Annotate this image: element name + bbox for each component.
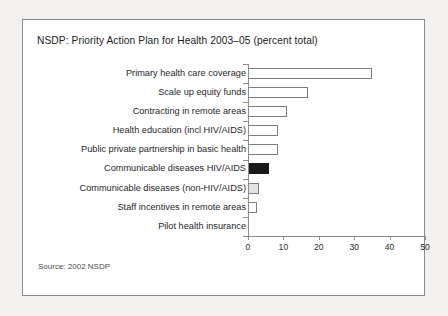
category-label: Communicable diseases HIV/AIDS — [104, 159, 246, 178]
plot-area: Primary health care coverage Scale up eq… — [37, 64, 412, 254]
bar-track — [248, 140, 412, 159]
figure-root: NSDP: Priority Action Plan for Health 20… — [0, 0, 448, 316]
bar-primary-health-care-coverage — [248, 68, 372, 79]
y-axis-tick — [243, 83, 248, 84]
category-label: Health education (incl HIV/AIDS) — [113, 121, 246, 140]
bar-row: Public private partnership in basic heal… — [37, 140, 412, 159]
page-title: NSDP: Priority Action Plan for Health 20… — [37, 35, 318, 46]
category-label: Public private partnership in basic heal… — [81, 140, 246, 159]
y-axis-tick — [243, 217, 248, 218]
x-axis-tick-label: 10 — [271, 242, 295, 252]
bar-row: Health education (incl HIV/AIDS) — [37, 121, 412, 140]
bar-row: Communicable diseases (non-HIV/AIDS) — [37, 179, 412, 198]
bar-staff-incentives-in-remote-areas — [248, 202, 257, 213]
category-label: Pilot health insurance — [158, 217, 246, 236]
bar-track — [248, 83, 412, 102]
x-axis-tick — [354, 236, 355, 240]
y-axis-tick — [243, 179, 248, 180]
bar-row: Contracting in remote areas — [37, 102, 412, 121]
category-label: Communicable diseases (non-HIV/AIDS) — [80, 179, 246, 198]
source-note: Source: 2002 NSDP — [38, 262, 110, 271]
category-label: Staff incentives in remote areas — [117, 198, 246, 217]
bar-track — [248, 217, 412, 236]
y-axis-tick — [243, 140, 248, 141]
bar-track — [248, 159, 412, 178]
bar-track — [248, 198, 412, 217]
bar-contracting-in-remote-areas — [248, 106, 287, 117]
category-label: Primary health care coverage — [126, 64, 246, 83]
x-axis-tick-label: 50 — [413, 242, 437, 252]
bar-track — [248, 102, 412, 121]
x-axis-tick-label: 40 — [378, 242, 402, 252]
bar-health-education — [248, 125, 278, 136]
bar-track — [248, 64, 412, 83]
y-axis-tick — [243, 121, 248, 122]
category-label: Scale up equity funds — [158, 83, 246, 102]
x-axis-tick-label: 30 — [342, 242, 366, 252]
bar-track — [248, 121, 412, 140]
bar-row: Staff incentives in remote areas — [37, 198, 412, 217]
y-axis-line — [248, 64, 249, 236]
x-axis-tick-label: 0 — [236, 242, 260, 252]
bar-communicable-diseases-hiv-aids — [248, 163, 269, 174]
x-axis-tick-label: 20 — [307, 242, 331, 252]
bar-row: Primary health care coverage — [37, 64, 412, 83]
x-axis-line — [248, 236, 426, 237]
bar-row: Scale up equity funds — [37, 83, 412, 102]
y-axis-tick — [243, 64, 248, 65]
x-axis-tick — [283, 236, 284, 240]
bar-communicable-diseases-non-hiv-aids — [248, 183, 259, 194]
bar-row: Pilot health insurance — [37, 217, 412, 236]
bar-scale-up-equity-funds — [248, 87, 308, 98]
bar-track — [248, 179, 412, 198]
bar-row: Communicable diseases HIV/AIDS — [37, 159, 412, 178]
x-axis-tick — [390, 236, 391, 240]
category-label: Contracting in remote areas — [133, 102, 246, 121]
chart-panel: NSDP: Priority Action Plan for Health 20… — [22, 19, 425, 296]
y-axis-tick — [243, 102, 248, 103]
x-axis-tick — [248, 236, 249, 240]
x-axis-tick — [425, 236, 426, 240]
x-axis-tick — [319, 236, 320, 240]
y-axis-tick — [243, 198, 248, 199]
y-axis-tick — [243, 160, 248, 161]
bar-public-private-partnership — [248, 144, 278, 155]
bar-rows: Primary health care coverage Scale up eq… — [37, 64, 412, 236]
